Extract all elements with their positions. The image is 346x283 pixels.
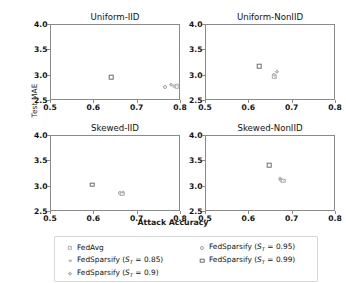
- plot-frame: [205, 24, 335, 100]
- x-tick-label: 0.5: [43, 214, 56, 223]
- x-tick-label: 0.7: [285, 214, 298, 223]
- x-tick-label: 0.8: [328, 103, 341, 112]
- x-tick-mark: [205, 100, 206, 103]
- y-tick-mark: [202, 49, 205, 50]
- y-tick-mark: [202, 75, 205, 76]
- y-tick-mark: [202, 24, 205, 25]
- circle-marker: [195, 241, 209, 254]
- legend-item[interactable]: FedSparsify (ST = 0.99): [195, 254, 295, 267]
- x-tick-label: 0.8: [173, 103, 186, 112]
- legend-item[interactable]: FedSparsify (ST = 0.95): [195, 241, 295, 254]
- y-tick-label: 3.0: [189, 181, 202, 190]
- x-tick-label: 0.6: [87, 103, 100, 112]
- y-tick-label: 3.5: [34, 45, 47, 54]
- y-tick-label: 4.0: [34, 20, 47, 29]
- x-tick-label: 0.6: [242, 214, 255, 223]
- y-tick-label: 4.0: [189, 20, 202, 29]
- subplot-skewed-noniid: Skewed-NonIID 2.53.03.54.00.50.60.70.8: [205, 135, 335, 211]
- x-tick-mark: [50, 100, 51, 103]
- legend-label: FedAvg: [77, 243, 104, 252]
- legend-item[interactable]: FedSparsify (ST = 0.9): [63, 267, 159, 280]
- point-fedavg: [120, 192, 124, 196]
- point-fedsparsify-095: [163, 85, 167, 89]
- y-tick-mark: [202, 135, 205, 136]
- x-tick-mark: [137, 211, 138, 214]
- subplot-title: Uniform-IID: [50, 12, 180, 22]
- point-fedavg: [175, 84, 179, 88]
- y-tick-label: 3.0: [189, 70, 202, 79]
- x-tick-mark: [292, 211, 293, 214]
- tiny-square-marker: [63, 254, 77, 267]
- plot-frame: [50, 135, 180, 211]
- x-tick-mark: [205, 211, 206, 214]
- y-tick-mark: [47, 49, 50, 50]
- x-tick-mark: [248, 211, 249, 214]
- plot-frame: [50, 24, 180, 100]
- x-tick-label: 0.5: [198, 103, 211, 112]
- subplot-uniform-iid: Uniform-IID 2.53.03.54.00.50.60.70.8: [50, 24, 180, 100]
- y-tick-label: 3.5: [189, 45, 202, 54]
- x-tick-label: 0.6: [87, 214, 100, 223]
- x-tick-mark: [93, 100, 94, 103]
- x-tick-mark: [248, 100, 249, 103]
- y-tick-mark: [47, 75, 50, 76]
- plot-frame: [205, 135, 335, 211]
- x-tick-mark: [292, 100, 293, 103]
- x-tick-mark: [50, 211, 51, 214]
- x-tick-label: 0.8: [328, 214, 341, 223]
- y-tick-mark: [47, 186, 50, 187]
- y-tick-mark: [202, 160, 205, 161]
- x-tick-mark: [93, 211, 94, 214]
- x-tick-mark: [335, 100, 336, 103]
- x-tick-label: 0.6: [242, 103, 255, 112]
- y-tick-mark: [202, 186, 205, 187]
- subplot-title: Skewed-IID: [50, 123, 180, 133]
- subplot-skewed-iid: Skewed-IID 2.53.03.54.00.50.60.70.8: [50, 135, 180, 211]
- legend-label: FedSparsify (ST = 0.95): [209, 242, 295, 252]
- x-tick-label: 0.7: [130, 214, 143, 223]
- y-tick-mark: [47, 135, 50, 136]
- x-tick-mark: [137, 100, 138, 103]
- subplot-uniform-noniid: Uniform-NonIID 2.53.03.54.00.50.60.70.8: [205, 24, 335, 100]
- point-fedsparsify-099: [257, 64, 262, 69]
- x-tick-label: 0.7: [130, 103, 143, 112]
- x-tick-label: 0.8: [173, 214, 186, 223]
- point-fedavg: [272, 74, 276, 78]
- square-marker: [195, 254, 209, 267]
- y-tick-label: 3.0: [34, 181, 47, 190]
- subplot-title: Uniform-NonIID: [205, 12, 335, 22]
- point-fedsparsify-099: [90, 182, 95, 187]
- point-fedsparsify-099: [109, 75, 114, 80]
- legend-item[interactable]: FedAvg: [63, 241, 104, 254]
- y-tick-mark: [47, 24, 50, 25]
- subplot-title: Skewed-NonIID: [205, 123, 335, 133]
- legend: FedAvgFedSparsify (ST = 0.85)FedSparsify…: [54, 236, 318, 282]
- diamond-marker: [63, 267, 77, 280]
- hatched-square-marker: [63, 241, 77, 254]
- y-tick-label: 4.0: [34, 131, 47, 140]
- x-tick-label: 0.5: [198, 214, 211, 223]
- legend-label: FedSparsify (ST = 0.9): [77, 268, 159, 278]
- point-fedsparsify-099: [267, 163, 272, 168]
- legend-label: FedSparsify (ST = 0.99): [209, 255, 295, 265]
- legend-item[interactable]: FedSparsify (ST = 0.85): [63, 254, 163, 267]
- y-tick-label: 3.0: [34, 70, 47, 79]
- x-tick-mark: [335, 211, 336, 214]
- point-fedavg: [281, 178, 285, 182]
- legend-label: FedSparsify (ST = 0.85): [77, 255, 163, 265]
- x-tick-mark: [180, 211, 181, 214]
- figure: Test MAE Attack Accuracy Uniform-IID 2.5…: [0, 0, 346, 283]
- x-tick-label: 0.5: [43, 103, 56, 112]
- y-tick-label: 4.0: [189, 131, 202, 140]
- y-tick-mark: [47, 160, 50, 161]
- x-tick-label: 0.7: [285, 103, 298, 112]
- y-tick-label: 3.5: [34, 156, 47, 165]
- y-tick-label: 3.5: [189, 156, 202, 165]
- x-tick-mark: [180, 100, 181, 103]
